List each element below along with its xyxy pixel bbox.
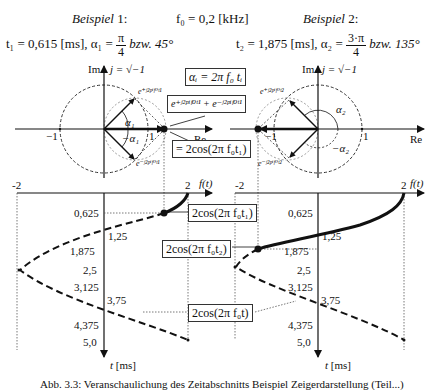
equals-cos-box: = 2cos(2π f₀t₁) — [172, 140, 251, 158]
right-fmin-label: -2 — [235, 180, 244, 191]
minus-alpha2-label: −α₂ — [332, 143, 349, 154]
minus-one-right: −1 — [265, 131, 277, 142]
right-tick-125: 1,25 — [322, 231, 341, 242]
left-fmin-label: -2 — [12, 180, 21, 191]
right-time-plot — [234, 193, 425, 357]
right-tick-0625: 0,625 — [288, 208, 313, 219]
re-label-right: Re — [410, 134, 422, 145]
right-t-label: t [ms] — [325, 360, 351, 371]
left-tick-3125: 3,125 — [74, 282, 99, 293]
cos-t-box: 2cos(2π f₀t) — [188, 304, 253, 322]
cos-t2-box: 2cos(2π f₀t₂) — [162, 240, 231, 258]
e-plus-left: e⁺ʲ²ᵖⁱᶠ⁰ᵗ¹ — [138, 88, 162, 96]
sum-dot-left — [161, 126, 168, 133]
right-tick-25: 2,5 — [297, 265, 311, 276]
one-left: 1 — [149, 131, 155, 142]
left-f-label: f(t) — [199, 178, 212, 189]
alpha-definition-box: αᵢ = 2π f₀ tᵢ — [185, 68, 246, 86]
left-tick-125: 1,25 — [108, 231, 127, 242]
figure-caption: Abb. 3.3: Veranschaulichung des Zeitabsc… — [40, 378, 404, 390]
e-minus-left: e⁻ʲ²ᵖⁱᶠ⁰ᵗ¹ — [136, 160, 160, 168]
minus-one-left: −1 — [46, 131, 58, 142]
left-tick-50: 5,0 — [83, 337, 97, 348]
left-tick-1875: 1,875 — [70, 246, 95, 257]
j-label-left: j = √−1 — [110, 64, 145, 75]
right-tick-50: 5,0 — [297, 337, 311, 348]
e-plus-right: e⁺ʲ²ᵖⁱᶠ⁰ᵗ² — [260, 88, 284, 96]
alpha1-label: α₁ — [125, 117, 135, 128]
right-f-label: f(t) — [410, 178, 423, 189]
minus-alpha1-label: −α₁ — [122, 133, 139, 144]
im-label-right: Im — [302, 64, 314, 75]
right-tick-1875: 1,875 — [284, 246, 309, 257]
left-tick-4375: 4,375 — [74, 320, 99, 331]
right-tick-4375: 4,375 — [288, 320, 313, 331]
right-fmax-label: 2 — [401, 180, 407, 191]
alpha2-label: α₂ — [336, 104, 346, 115]
left-tick-25: 2,5 — [83, 265, 97, 276]
e-minus-right: e⁻ʲ²ᵖⁱᶠ⁰ᵗ² — [258, 160, 282, 168]
cos-t1-box: 2cos(2π f₀t₁) — [188, 204, 257, 222]
right-tick-3125: 3,125 — [288, 282, 313, 293]
left-tick-0625: 0,625 — [74, 208, 99, 219]
left-fmax-label: 2 — [185, 180, 191, 191]
im-label-left: Im — [88, 64, 100, 75]
j-label-right: j = √−1 — [322, 64, 357, 75]
sum-dot-right — [255, 126, 262, 133]
phasor-minus-right — [290, 129, 318, 157]
left-tick-375: 3,75 — [107, 295, 126, 306]
one-right: 1 — [363, 131, 369, 142]
left-t-label: t [ms] — [110, 360, 136, 371]
sum-expression-box: e⁺ʲ²ᵖⁱᶠ⁰ᵗ¹ + e⁻ʲ²ᵖⁱᶠ⁰ᵗ¹ — [167, 95, 246, 113]
phasor-plus-right — [290, 101, 318, 129]
right-tick-375: 3,75 — [321, 295, 340, 306]
left-phasor-diagram — [15, 66, 212, 178]
left-time-plot — [17, 193, 212, 357]
